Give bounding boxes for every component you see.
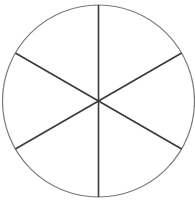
sector-divider-line	[99, 101, 182, 149]
sector-dividers	[15, 5, 181, 197]
sector-divider-line	[15, 53, 98, 101]
six-sector-circle-diagram	[0, 0, 195, 201]
sector-divider-line	[99, 53, 182, 101]
sector-divider-line	[15, 101, 98, 149]
